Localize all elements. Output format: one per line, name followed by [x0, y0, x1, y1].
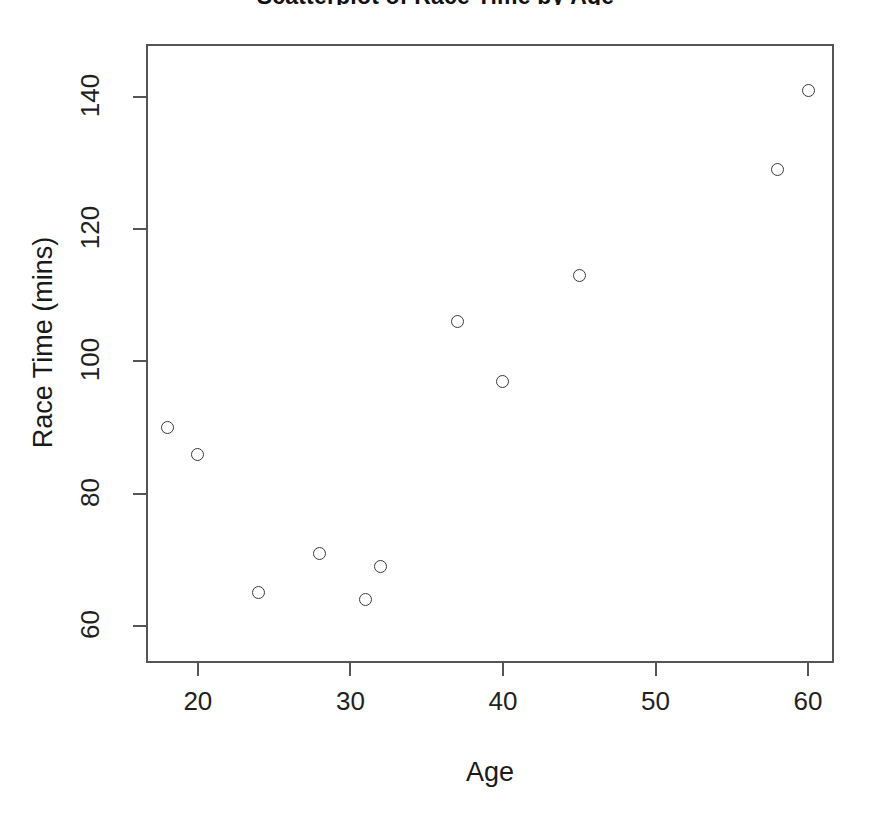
plot-data-area	[146, 44, 834, 663]
x-tick	[197, 663, 199, 676]
data-point	[771, 163, 784, 176]
x-tick	[807, 663, 809, 676]
y-tick-label: 100	[75, 332, 106, 388]
y-tick-label: 80	[75, 464, 106, 520]
y-tick	[133, 228, 146, 230]
y-tick	[133, 625, 146, 627]
data-point	[313, 547, 326, 560]
y-tick	[133, 96, 146, 98]
data-point	[161, 421, 174, 434]
data-point	[191, 448, 204, 461]
x-tick	[655, 663, 657, 676]
x-axis-title: Age	[146, 757, 834, 788]
data-point	[573, 269, 586, 282]
x-tick-label: 20	[168, 686, 228, 717]
x-tick-label: 50	[626, 686, 686, 717]
y-tick	[133, 493, 146, 495]
page-title: Scatterplot of Race Time by Age	[0, 0, 871, 5]
data-point	[802, 84, 815, 97]
y-tick-label: 60	[75, 596, 106, 652]
data-point	[451, 315, 464, 328]
scatter-plot-figure: Scatterplot of Race Time by Age 60801001…	[0, 0, 871, 813]
data-point	[496, 375, 509, 388]
y-tick	[133, 360, 146, 362]
data-point	[252, 586, 265, 599]
x-tick-label: 30	[320, 686, 380, 717]
x-tick	[349, 663, 351, 676]
y-tick-label: 140	[75, 67, 106, 123]
y-tick-label: 120	[75, 200, 106, 256]
data-point	[374, 560, 387, 573]
x-tick-label: 40	[473, 686, 533, 717]
data-point	[359, 593, 372, 606]
x-tick-label: 60	[778, 686, 838, 717]
x-tick	[502, 663, 504, 676]
y-axis-title: Race Time (mins)	[28, 193, 59, 493]
